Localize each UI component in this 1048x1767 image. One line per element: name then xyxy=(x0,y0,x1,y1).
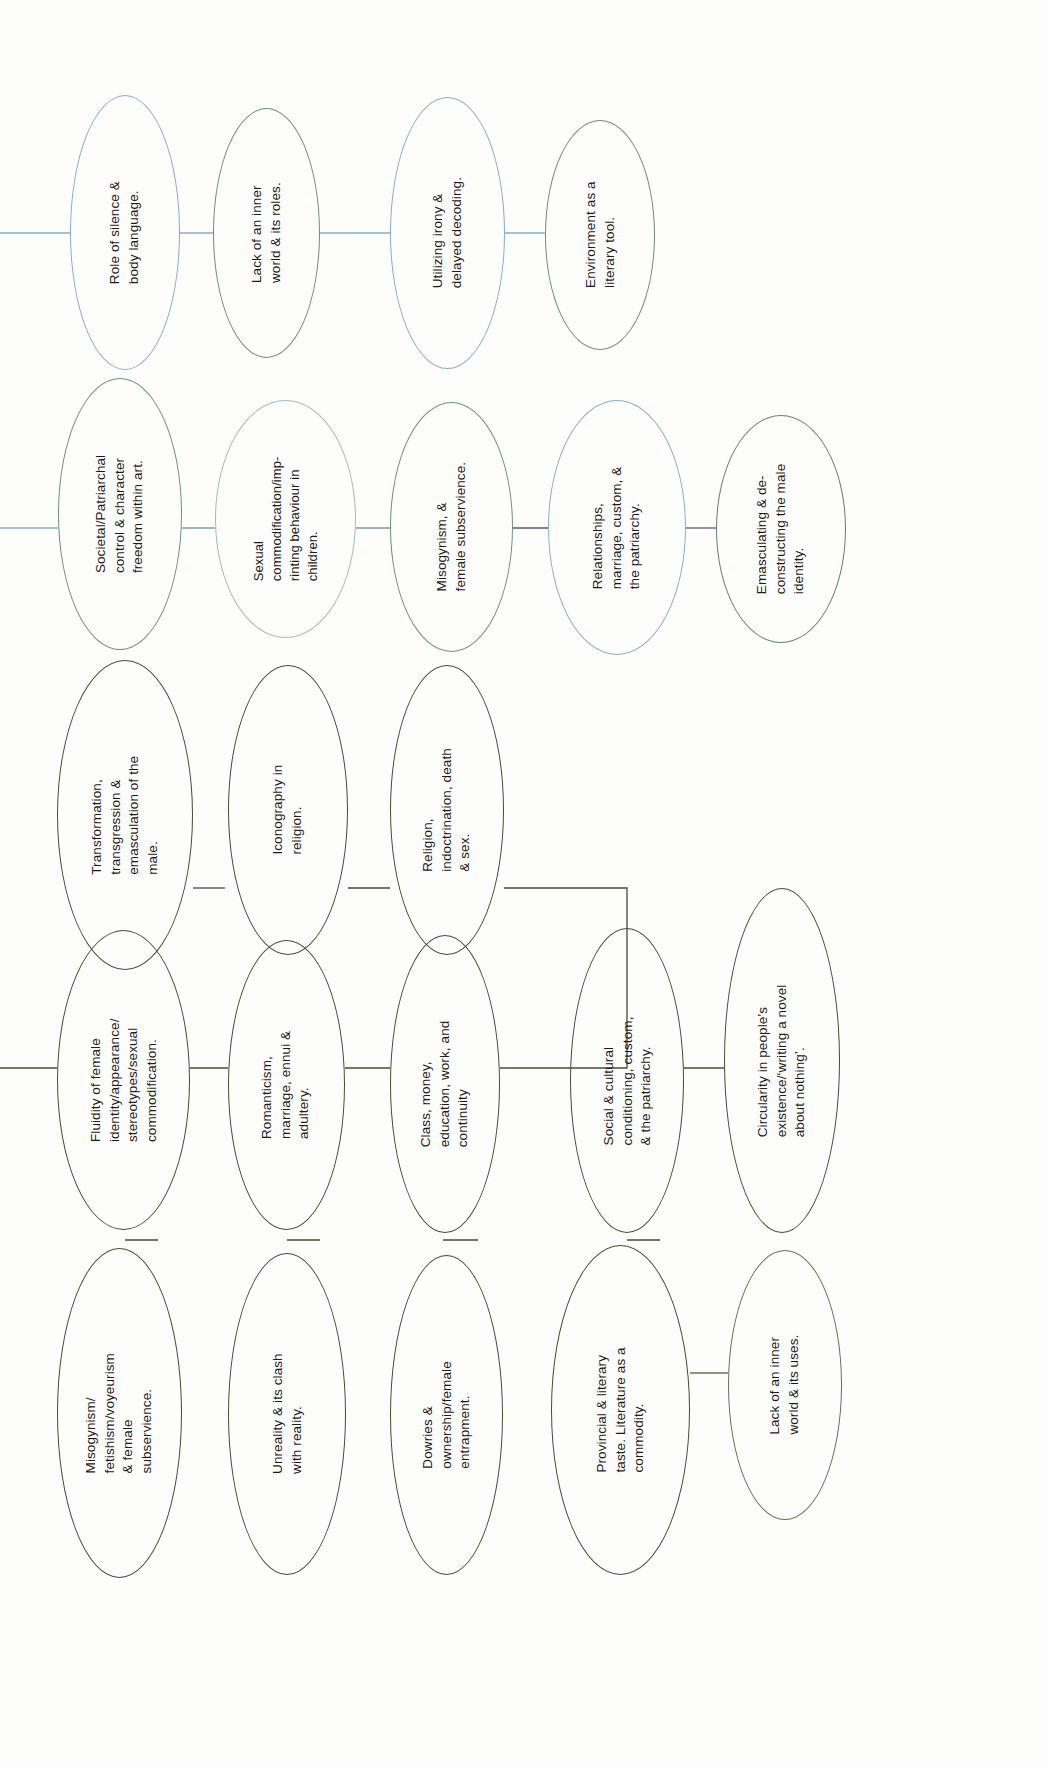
node-label: Iconography in religion. xyxy=(269,765,306,855)
node-label: Lack of an inner world & its roles. xyxy=(248,183,285,284)
node-label: Environment as a literary tool. xyxy=(581,182,618,289)
node-romanticism-marriage-ennui[interactable]: Romanticism, marriage, ennui & adultery. xyxy=(228,940,345,1230)
node-label: Societal/Patriarchal control & character… xyxy=(92,455,148,573)
node-label: Provincial & literary taste. Literature … xyxy=(593,1347,649,1472)
node-label: Fluidity of female identity/appearance/ … xyxy=(86,1018,161,1142)
node-label: Utilizing irony & delayed decoding. xyxy=(429,177,466,288)
node-label: Misogynism, & female subservience. xyxy=(433,462,470,592)
node-iconography-religion[interactable]: Iconography in religion. xyxy=(228,665,348,955)
node-utilizing-irony[interactable]: Utilizing irony & delayed decoding. xyxy=(390,97,505,369)
node-class-money-education[interactable]: Class, money, education, work, and conti… xyxy=(390,935,500,1233)
node-dowries-ownership-entrapment[interactable]: Dowries & ownership/female entrapment. xyxy=(390,1255,503,1575)
node-misogynism-fetishism-voyeurism[interactable]: Misogynism/ fetishism/voyeurism & female… xyxy=(57,1248,182,1578)
node-circularity-existence[interactable]: Circularity in people’s existence/‘writi… xyxy=(724,888,840,1233)
node-provincial-literary-taste[interactable]: Provincial & literary taste. Literature … xyxy=(551,1245,690,1575)
node-label: Relationships, marriage, custom, & the p… xyxy=(589,466,645,589)
node-label: Sexual commodification/imp- rinting beha… xyxy=(250,457,322,582)
node-role-of-silence[interactable]: Role of silence & body language. xyxy=(70,95,180,370)
node-label: Unreality & its clash with reality. xyxy=(268,1354,305,1475)
node-label: Social & cultural conditioning, custom, … xyxy=(599,1016,655,1145)
node-social-cultural-conditioning[interactable]: Social & cultural conditioning, custom, … xyxy=(570,928,684,1233)
node-societal-patriarchal-control[interactable]: Societal/Patriarchal control & character… xyxy=(58,378,182,650)
node-label: Emasculating & de- constructing the male… xyxy=(753,464,809,594)
node-emasculating-deconstructing[interactable]: Emasculating & de- constructing the male… xyxy=(716,415,846,643)
node-environment-literary-tool[interactable]: Environment as a literary tool. xyxy=(545,120,655,350)
node-fluidity-female-identity[interactable]: Fluidity of female identity/appearance/ … xyxy=(57,930,190,1230)
node-relationships-marriage-custom[interactable]: Relationships, marriage, custom, & the p… xyxy=(548,400,686,655)
node-label: Romanticism, marriage, ennui & adultery. xyxy=(259,1031,315,1139)
mindmap-canvas: Role of silence & body language. Lack of… xyxy=(0,0,1048,1767)
node-lack-inner-world-roles[interactable]: Lack of an inner world & its roles. xyxy=(213,108,320,358)
node-label: Transformation, transgression & emascula… xyxy=(88,756,163,875)
node-sexual-commodification[interactable]: Sexual commodification/imp- rinting beha… xyxy=(215,400,356,638)
node-religion-indoctrination[interactable]: Religion, indoctrination, death & sex. xyxy=(390,665,504,955)
node-label: Class, money, education, work, and conti… xyxy=(417,1021,473,1148)
node-label: Lack of an inner world & its uses. xyxy=(766,1335,803,1435)
node-transformation-transgression[interactable]: Transformation, transgression & emascula… xyxy=(57,660,193,970)
node-label: Religion, indoctrination, death & sex. xyxy=(419,748,475,872)
node-label: Circularity in people’s existence/‘writi… xyxy=(754,984,810,1137)
node-misogynism-female-subservience[interactable]: Misogynism, & female subservience. xyxy=(390,402,513,652)
node-lack-inner-world-uses[interactable]: Lack of an inner world & its uses. xyxy=(728,1250,842,1520)
node-label: Misogynism/ fetishism/voyeurism & female… xyxy=(82,1353,157,1473)
node-label: Role of silence & body language. xyxy=(106,181,143,284)
node-unreality-clash-reality[interactable]: Unreality & its clash with reality. xyxy=(228,1253,346,1575)
node-label: Dowries & ownership/female entrapment. xyxy=(419,1361,475,1468)
